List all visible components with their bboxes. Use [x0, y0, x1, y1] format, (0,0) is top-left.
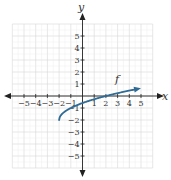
tick-labels: −5−4−3−2−112345−5−4−3−2−112345 — [18, 32, 143, 161]
x-tick-label: −5 — [18, 99, 30, 108]
y-tick-label: 1 — [74, 80, 79, 89]
y-tick-label: −2 — [68, 116, 80, 125]
x-tick-label: −2 — [53, 99, 65, 108]
y-tick-label: −3 — [68, 128, 80, 137]
y-tick-label: 5 — [74, 32, 79, 41]
x-tick-label: −3 — [42, 99, 54, 108]
y-tick-label: 4 — [74, 44, 79, 53]
x-axis-label: x — [162, 90, 169, 103]
x-tick-label: 4 — [127, 99, 132, 108]
y-tick-label: −5 — [68, 152, 80, 161]
y-axis-label: y — [77, 1, 85, 14]
x-tick-label: 3 — [115, 99, 120, 108]
x-tick-label: −4 — [30, 99, 42, 108]
y-tick-label: 2 — [74, 68, 79, 77]
y-tick-label: 3 — [74, 56, 79, 65]
y-tick-label: −4 — [68, 140, 80, 149]
x-tick-label: 2 — [103, 99, 108, 108]
function-graph: −5−4−3−2−112345−5−4−3−2−112345 x y f — [0, 0, 171, 180]
axes — [4, 13, 164, 177]
x-tick-label: 5 — [138, 99, 143, 108]
